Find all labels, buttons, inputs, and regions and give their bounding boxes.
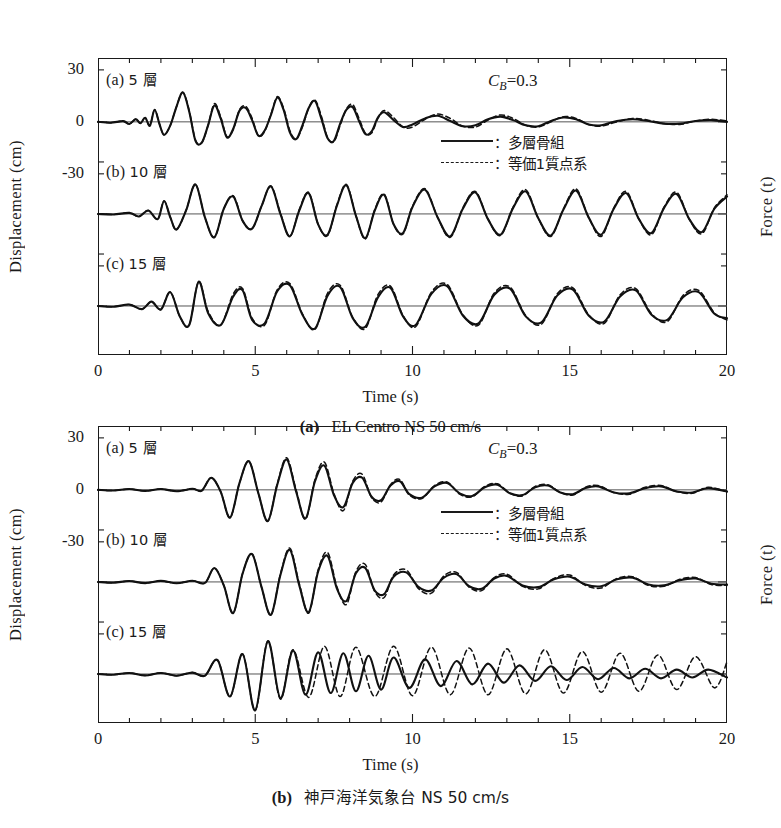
panel-label-10-story: (b) 10 層 — [106, 528, 167, 549]
legend-dashed-label: ：等価1質点系 — [494, 523, 587, 544]
caption-text: 神戸海洋気象台 NS 50 cm/s — [304, 789, 509, 807]
legend-solid-label: ：多層骨組 — [494, 131, 564, 152]
seismic-response-figure: Displacement (cm) Force (t) 30 0 -30 0 5… — [0, 0, 781, 828]
legend-el-centro: ：多層骨組 ：等価1質点系 — [441, 131, 587, 173]
panel-label-5-story: (a) 5 層 — [106, 68, 157, 89]
cb-subscript: B — [499, 448, 506, 462]
y-axis-label-left: Displacement (cm) — [6, 436, 26, 713]
panel-tag-text: (b) — [106, 163, 125, 180]
panel-story-text: 10 層 — [129, 164, 167, 180]
y-tick-0: 0 — [26, 111, 84, 131]
x-tick-15: 15 — [548, 361, 592, 381]
legend-solid-line-icon — [441, 511, 493, 513]
y-tick-30: 30 — [26, 59, 84, 79]
legend-solid-line-icon — [441, 140, 493, 142]
x-tick-20: 20 — [705, 729, 749, 749]
panel-story-text: 5 層 — [129, 440, 157, 456]
plot-area-el-centro — [98, 58, 727, 355]
x-tick-10: 10 — [391, 729, 435, 749]
subplot-el-centro: Displacement (cm) Force (t) 30 0 -30 0 5… — [0, 10, 781, 410]
panel-story-text: 10 層 — [129, 532, 167, 548]
y-tick-minus30: -30 — [26, 163, 84, 183]
panel-label-15-story: (c) 15 層 — [106, 620, 166, 641]
panel-story-text: 15 層 — [129, 624, 167, 640]
subplot-caption-b: (b) 神戸海洋気象台 NS 50 cm/s — [0, 785, 781, 808]
y-axis-label-right: Force (t) — [757, 436, 777, 713]
panel-tag-text: (c) — [106, 623, 124, 640]
cb-annotation: CB=0.3 — [488, 439, 538, 462]
x-tick-15: 15 — [548, 729, 592, 749]
y-tick-minus30: -30 — [26, 531, 84, 551]
cb-annotation: CB=0.3 — [488, 71, 538, 94]
y-tick-30: 30 — [26, 427, 84, 447]
legend-kobe: ：多層骨組 ：等価1質点系 — [441, 502, 587, 544]
legend-dashed-line-icon — [441, 162, 493, 163]
legend-row-dashed: ：等価1質点系 — [441, 152, 587, 173]
x-tick-0: 0 — [76, 729, 120, 749]
y-axis-label-right: Force (t) — [757, 68, 777, 345]
x-tick-10: 10 — [391, 361, 435, 381]
panel-label-15-story: (c) 15 層 — [106, 252, 166, 273]
panel-tag-text: (a) — [106, 71, 124, 88]
cb-value: =0.3 — [507, 71, 538, 90]
cb-symbol: C — [488, 439, 499, 458]
waveform-canvas-kobe — [98, 426, 727, 723]
y-tick-0: 0 — [26, 479, 84, 499]
cb-subscript: B — [499, 80, 506, 94]
panel-tag-text: (b) — [106, 531, 125, 548]
x-tick-0: 0 — [76, 361, 120, 381]
panel-story-text: 5 層 — [129, 72, 157, 88]
legend-dashed-line-icon — [441, 533, 493, 534]
x-tick-5: 5 — [233, 729, 277, 749]
legend-solid-label: ：多層骨組 — [494, 502, 564, 523]
caption-tag: (b) — [272, 788, 292, 807]
x-axis-title: Time (s) — [0, 755, 781, 775]
plot-area-kobe — [98, 426, 727, 723]
cb-symbol: C — [488, 71, 499, 90]
legend-row-solid: ：多層骨組 — [441, 502, 587, 523]
legend-row-dashed: ：等価1質点系 — [441, 523, 587, 544]
waveform-canvas-el-centro — [98, 58, 727, 355]
cb-value: =0.3 — [507, 439, 538, 458]
panel-label-10-story: (b) 10 層 — [106, 160, 167, 181]
x-axis-title: Time (s) — [0, 387, 781, 407]
panel-tag-text: (a) — [106, 439, 124, 456]
panel-label-5-story: (a) 5 層 — [106, 436, 157, 457]
legend-row-solid: ：多層骨組 — [441, 131, 587, 152]
legend-dashed-label: ：等価1質点系 — [494, 152, 587, 173]
panel-story-text: 15 層 — [129, 256, 167, 272]
subplot-kobe: Displacement (cm) Force (t) 30 0 -30 0 5… — [0, 408, 781, 828]
panel-tag-text: (c) — [106, 255, 124, 272]
y-axis-label-left: Displacement (cm) — [6, 68, 26, 345]
x-tick-20: 20 — [705, 361, 749, 381]
x-tick-5: 5 — [233, 361, 277, 381]
